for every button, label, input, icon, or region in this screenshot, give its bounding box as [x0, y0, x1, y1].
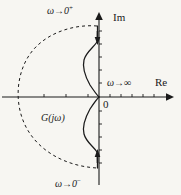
nyquist-curve-upper — [83, 26, 99, 97]
omega-zero-minus-text: ω→0 — [55, 178, 77, 189]
imaginary-axis-label: Im — [113, 12, 125, 23]
plot-canvas — [0, 0, 181, 195]
transfer-function-label: G(jω) — [41, 113, 65, 123]
omega-zero-plus-superscript: + — [69, 4, 73, 12]
nyquist-plot-figure: Im Re 0 ω→0+ ω→0− ω→∞ G(jω) — [0, 0, 181, 195]
omega-to-zero-minus-label: ω→0− — [55, 178, 81, 189]
nyquist-curve-lower — [83, 97, 99, 168]
origin-label: 0 — [103, 99, 109, 110]
real-axis — [2, 93, 174, 101]
omega-zero-minus-superscript: − — [77, 177, 81, 185]
real-axis-label: Re — [155, 77, 167, 88]
omega-zero-plus-text: ω→0 — [47, 5, 69, 16]
omega-to-zero-plus-label: ω→0+ — [47, 5, 73, 16]
omega-to-infinity-label: ω→∞ — [107, 78, 131, 88]
